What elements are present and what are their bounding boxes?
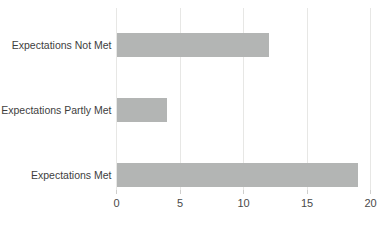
x-tick-mark-5 bbox=[180, 190, 181, 194]
gridline-x-20 bbox=[370, 8, 371, 190]
x-tick-mark-10 bbox=[243, 190, 244, 194]
bar-expectations-not-met bbox=[117, 33, 269, 57]
x-tick-label-20: 20 bbox=[356, 197, 385, 209]
x-tick-label-5: 5 bbox=[165, 197, 195, 209]
category-label-expectations-partly-met: Expectations Partly Met bbox=[1, 104, 111, 116]
category-label-expectations-not-met: Expectations Not Met bbox=[12, 39, 112, 51]
x-tick-label-15: 15 bbox=[292, 197, 322, 209]
x-tick-mark-20 bbox=[370, 190, 371, 194]
x-tick-label-10: 10 bbox=[229, 197, 259, 209]
x-tick-mark-15 bbox=[307, 190, 308, 194]
horizontal-bar-chart: 05101520Expectations Not MetExpectations… bbox=[0, 0, 385, 229]
x-tick-label-0: 0 bbox=[102, 197, 132, 209]
bar-expectations-partly-met bbox=[117, 98, 168, 122]
category-label-expectations-met: Expectations Met bbox=[31, 169, 112, 181]
bar-expectations-met bbox=[117, 163, 358, 187]
x-tick-mark-0 bbox=[116, 190, 117, 194]
